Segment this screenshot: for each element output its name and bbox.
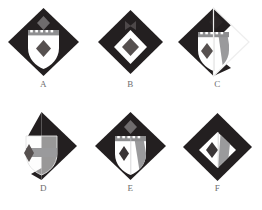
figure-f-graphic: [174, 106, 261, 184]
figure-e-graphic: [87, 106, 174, 184]
shield-d-outline: [20, 136, 64, 175]
figure-cell-b[interactable]: B: [87, 2, 174, 102]
figure-label-b: B: [87, 78, 174, 90]
figure-d-graphic: [0, 106, 87, 184]
figure-cell-a[interactable]: A: [0, 2, 87, 102]
crenellated-chief-a: [28, 30, 59, 35]
figure-c-graphic: [174, 2, 261, 80]
figure-grid: A: [0, 0, 262, 210]
figure-sheet: A: [0, 0, 262, 210]
figure-cell-f[interactable]: F: [174, 106, 261, 206]
figure-cell-e[interactable]: E: [87, 106, 174, 206]
figure-label-e: E: [87, 182, 174, 194]
figure-label-d: D: [0, 182, 87, 194]
figure-label-c: C: [174, 78, 261, 90]
figure-cell-d[interactable]: D: [0, 106, 87, 206]
figure-label-f: F: [174, 182, 261, 194]
figure-label-a: A: [0, 78, 87, 90]
figure-a-graphic: [0, 2, 87, 80]
figure-b-graphic: [87, 2, 174, 80]
figure-cell-c[interactable]: C: [174, 2, 261, 102]
